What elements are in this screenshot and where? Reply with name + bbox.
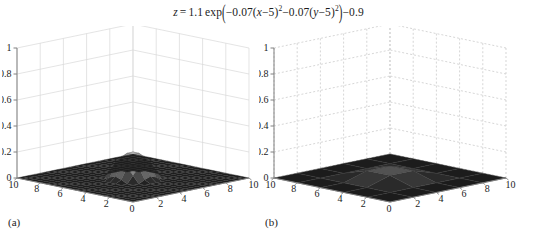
z-tick-label: 0.6 <box>259 94 269 105</box>
x-tick-label: 2 <box>158 198 163 209</box>
equation-term2: −0.07( <box>282 6 313 18</box>
y-tick-label: 2 <box>361 198 366 209</box>
x-tick-label: 8 <box>485 183 490 194</box>
subplot-b: 00.20.40.60.812468102468100 (b) <box>259 26 521 231</box>
equation-lhs: z <box>173 6 178 18</box>
y-tick-label: 6 <box>57 188 62 199</box>
equation-close-paren: ) <box>339 0 343 23</box>
y-tick-label: 10 <box>9 179 19 190</box>
figure-container: z=1.1exp(−0.07(x−5)2−0.07(y−5)2)−0.9 00.… <box>0 0 537 231</box>
panel-label-b: (b) <box>265 216 278 228</box>
equation-term1-rest: −5) <box>262 6 278 18</box>
z-tick-label: 0.2 <box>2 146 12 157</box>
equation-offset: −0.9 <box>343 6 364 18</box>
surface-plot-b: 00.20.40.60.812468102468100 <box>259 26 521 231</box>
x-tick-label: 8 <box>228 183 233 194</box>
origin-tick-label: 0 <box>130 203 135 214</box>
y-tick-label: 4 <box>81 193 86 204</box>
z-tick-label: 1 <box>7 42 12 53</box>
y-tick-label: 8 <box>291 183 296 194</box>
surface-plot-a: 00.20.40.60.812468102468100 <box>2 26 264 231</box>
origin-tick-label: 0 <box>387 203 392 214</box>
subplot-a: 00.20.40.60.812468102468100 (a) <box>2 26 264 231</box>
equation-equals: = <box>180 6 187 18</box>
x-tick-label: 6 <box>205 188 210 199</box>
z-tick-label: 0.4 <box>2 120 12 131</box>
equation-coefficient: 1.1 <box>188 6 203 18</box>
equation-term1: −0.07( <box>226 6 257 18</box>
x-tick-label: 4 <box>181 193 186 204</box>
equation-exp-label: exp <box>205 6 222 18</box>
x-tick-label: 10 <box>506 179 516 190</box>
equation-open-paren: ( <box>222 0 226 23</box>
x-tick-label: 4 <box>438 193 443 204</box>
y-tick-label: 2 <box>104 198 109 209</box>
y-tick-label: 4 <box>338 193 343 204</box>
x-tick-label: 2 <box>415 198 420 209</box>
x-tick-label: 10 <box>249 179 259 190</box>
z-tick-label: 0.8 <box>2 68 12 79</box>
z-tick-label: 0.2 <box>259 146 269 157</box>
y-tick-label: 8 <box>34 183 39 194</box>
y-tick-label: 6 <box>314 188 319 199</box>
panel-label-a: (a) <box>8 216 20 228</box>
equation-term2-rest: −5) <box>319 6 335 18</box>
y-tick-label: 10 <box>266 179 276 190</box>
z-tick-label: 0.4 <box>259 120 269 131</box>
x-tick-label: 6 <box>462 188 467 199</box>
z-tick-label: 0.8 <box>259 68 269 79</box>
z-tick-label: 1 <box>264 42 269 53</box>
z-tick-label: 0.6 <box>2 94 12 105</box>
equation-caption: z=1.1exp(−0.07(x−5)2−0.07(y−5)2)−0.9 <box>0 4 537 18</box>
